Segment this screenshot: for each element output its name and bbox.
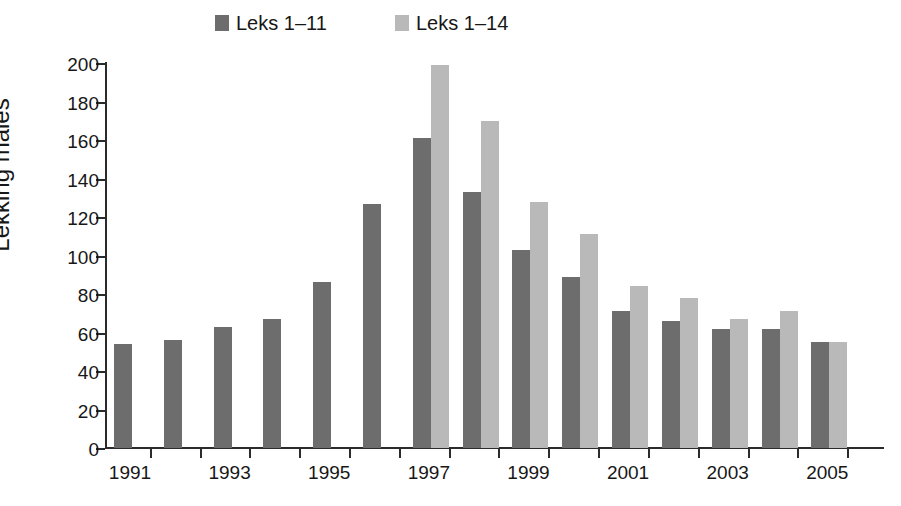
legend-swatch-icon-leks-1-11 bbox=[215, 15, 229, 31]
bar bbox=[481, 121, 499, 448]
legend-swatch-icon-leks-1-14 bbox=[395, 15, 409, 31]
y-tick-label: 120 bbox=[67, 209, 99, 228]
bar-chart-figure: Leks 1–11 Leks 1–14 Lekking males 200180… bbox=[0, 0, 901, 506]
x-tick-label: 2003 bbox=[707, 462, 749, 484]
x-tick-mark bbox=[698, 449, 700, 458]
bar bbox=[712, 329, 730, 448]
bar bbox=[363, 204, 381, 448]
bar bbox=[512, 250, 530, 448]
x-tick-mark bbox=[548, 449, 550, 458]
x-tick-label: 1995 bbox=[308, 462, 350, 484]
x-tick-mark bbox=[598, 449, 600, 458]
x-tick-mark bbox=[150, 449, 152, 458]
y-tick-label: 40 bbox=[78, 363, 99, 382]
x-tick-label: 1997 bbox=[408, 462, 450, 484]
legend-item-leks-1-14: Leks 1–14 bbox=[395, 10, 508, 36]
legend-item-leks-1-11: Leks 1–11 bbox=[215, 10, 327, 36]
bar bbox=[612, 311, 630, 448]
bar bbox=[114, 344, 132, 448]
legend-label-leks-1-14: Leks 1–14 bbox=[416, 12, 508, 34]
legend-label-leks-1-11: Leks 1–11 bbox=[236, 12, 327, 34]
x-tick-mark bbox=[449, 449, 451, 458]
x-tick-mark bbox=[797, 449, 799, 458]
y-tick-label: 20 bbox=[78, 401, 99, 420]
bar bbox=[313, 282, 331, 448]
bar bbox=[463, 192, 481, 448]
bar bbox=[730, 319, 748, 448]
x-tick-mark bbox=[299, 449, 301, 458]
bar bbox=[580, 234, 598, 448]
y-tick-label: 200 bbox=[67, 55, 99, 74]
y-axis-title: Lekking males bbox=[0, 35, 14, 315]
bar bbox=[662, 321, 680, 448]
x-tick-mark bbox=[349, 449, 351, 458]
x-tick-label: 2001 bbox=[607, 462, 649, 484]
x-tick-label: 1991 bbox=[109, 462, 151, 484]
y-tick-label: 60 bbox=[78, 324, 99, 343]
x-tick-mark bbox=[498, 449, 500, 458]
bar bbox=[562, 277, 580, 448]
bar bbox=[431, 65, 449, 448]
y-tick-label: 180 bbox=[67, 93, 99, 112]
x-tick-mark bbox=[200, 449, 202, 458]
bar bbox=[530, 202, 548, 448]
x-tick-label: 1993 bbox=[208, 462, 250, 484]
y-tick-label: 80 bbox=[78, 286, 99, 305]
x-tick-label: 1999 bbox=[507, 462, 549, 484]
y-tick-label: 0 bbox=[88, 440, 99, 459]
plot-area: 200180160140120100806040200 bbox=[105, 63, 882, 448]
bar bbox=[263, 319, 281, 448]
bar bbox=[680, 298, 698, 448]
x-tick-mark bbox=[847, 449, 849, 458]
bar bbox=[630, 286, 648, 448]
x-tick-mark bbox=[748, 449, 750, 458]
bar bbox=[413, 138, 431, 448]
bar bbox=[214, 327, 232, 448]
chart-legend: Leks 1–11 Leks 1–14 bbox=[0, 8, 901, 42]
bar bbox=[829, 342, 847, 448]
x-tick-mark bbox=[249, 449, 251, 458]
x-tick-label: 2005 bbox=[806, 462, 848, 484]
y-tick-label: 160 bbox=[67, 132, 99, 151]
bar bbox=[811, 342, 829, 448]
bar bbox=[762, 329, 780, 448]
y-tick-label: 140 bbox=[67, 170, 99, 189]
bar bbox=[780, 311, 798, 448]
bar bbox=[164, 340, 182, 448]
y-tick-label: 100 bbox=[67, 247, 99, 266]
x-tick-mark bbox=[399, 449, 401, 458]
x-tick-mark bbox=[648, 449, 650, 458]
